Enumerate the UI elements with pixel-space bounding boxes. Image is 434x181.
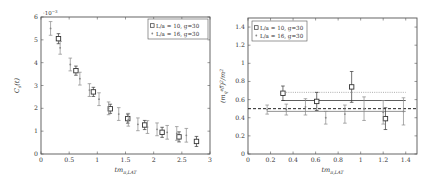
data-point bbox=[349, 71, 353, 102]
square-marker bbox=[315, 99, 319, 103]
x-tick-label: 0 bbox=[39, 156, 43, 163]
data-point bbox=[343, 105, 347, 123]
dot-marker bbox=[285, 109, 287, 111]
legend-label: L/a = 10, g=30 bbox=[156, 23, 200, 30]
dot-marker bbox=[79, 78, 81, 80]
data-point bbox=[117, 108, 121, 121]
data-point bbox=[315, 92, 319, 110]
dot-marker bbox=[403, 110, 405, 112]
y-tick-label: 3 bbox=[34, 82, 38, 89]
dot-marker bbox=[147, 126, 149, 128]
y-tick-label: 0.8 bbox=[235, 77, 245, 84]
square-marker bbox=[56, 36, 60, 40]
y-tick-label: 1.4 bbox=[235, 23, 245, 30]
y-tick-label: 5 bbox=[34, 36, 38, 43]
y-tick-label: 4 bbox=[34, 59, 38, 66]
dot-marker bbox=[89, 89, 91, 91]
data-point bbox=[285, 104, 289, 115]
square-marker bbox=[74, 68, 78, 72]
data-point bbox=[88, 84, 92, 97]
y-tick-label: 6 bbox=[34, 13, 38, 20]
x-tick-label: 1 bbox=[95, 156, 99, 163]
dot-marker bbox=[127, 119, 129, 121]
legend-dot-icon bbox=[255, 35, 257, 37]
legend-label: L/a = 16, g=30 bbox=[260, 33, 304, 40]
data-point bbox=[97, 93, 101, 106]
square-marker bbox=[160, 130, 164, 134]
data-point bbox=[68, 58, 72, 71]
legend: L/a = 10, g=30L/a = 16, g=30 bbox=[148, 19, 208, 39]
square-marker bbox=[349, 85, 353, 89]
data-point bbox=[324, 111, 328, 124]
x-tick-label: 0.8 bbox=[333, 156, 343, 163]
square-marker bbox=[91, 90, 95, 94]
dot-marker bbox=[166, 131, 168, 133]
legend-square-icon bbox=[151, 24, 155, 28]
dot-marker bbox=[137, 123, 139, 125]
x-tick-label: 1.2 bbox=[378, 156, 388, 163]
y-tick-label: 0 bbox=[241, 150, 245, 157]
dot-marker bbox=[59, 47, 61, 49]
legend: L/a = 10, g=30L/a = 16, g=30 bbox=[252, 21, 307, 41]
y-tick-label: 0.4 bbox=[235, 114, 245, 121]
x-tick-label: 1 bbox=[359, 156, 363, 163]
dot-marker bbox=[325, 117, 327, 119]
series-L10 bbox=[56, 34, 198, 147]
right-chart: 00.20.40.60.811.21.400.20.40.60.811.21.4… bbox=[217, 0, 434, 181]
left-chart: 00.511.522.530123456tmπ,LATCs(t)·10−3L/a… bbox=[0, 0, 217, 181]
x-tick-label: 0.6 bbox=[311, 156, 321, 163]
dot-marker bbox=[185, 134, 187, 136]
y-tick-label: 2 bbox=[34, 104, 38, 111]
data-point bbox=[304, 99, 308, 115]
square-marker bbox=[194, 139, 198, 143]
series-L16 bbox=[49, 22, 188, 143]
data-point bbox=[185, 128, 189, 142]
square-marker bbox=[281, 91, 285, 95]
y-tick-label: 1 bbox=[34, 127, 38, 134]
data-point bbox=[49, 22, 53, 36]
x-axis-label-sub: π,LAT bbox=[122, 170, 137, 175]
data-point bbox=[160, 127, 164, 137]
data-point bbox=[91, 87, 95, 96]
y-scale-exponent: −3 bbox=[52, 9, 58, 14]
y-axis-label: (mqeff)2/m2 bbox=[219, 69, 228, 103]
data-point bbox=[165, 125, 169, 139]
x-tick-label: 1.4 bbox=[401, 156, 411, 163]
dot-marker bbox=[305, 106, 307, 108]
dot-marker bbox=[69, 64, 71, 66]
dot-marker bbox=[176, 133, 178, 135]
x-axis-label: tmπ,LAT bbox=[114, 166, 137, 175]
y-axis-label: Cs(t) bbox=[13, 78, 22, 93]
x-axis-label-sub: π,LAT bbox=[329, 170, 344, 175]
dot-marker bbox=[363, 108, 365, 110]
x-tick-label: 0 bbox=[246, 156, 250, 163]
x-tick-label: 3 bbox=[208, 156, 212, 163]
x-tick-label: 2.5 bbox=[177, 156, 187, 163]
y-tick-label: 0 bbox=[34, 150, 38, 157]
data-point bbox=[155, 123, 159, 136]
dot-marker bbox=[108, 107, 110, 109]
y-tick-label: 1.2 bbox=[235, 41, 245, 48]
dot-marker bbox=[344, 113, 346, 115]
data-point bbox=[58, 41, 62, 54]
data-point bbox=[126, 114, 130, 123]
dot-marker bbox=[118, 113, 120, 115]
dot-marker bbox=[98, 98, 100, 100]
y-axis-label-sup3: 2 bbox=[219, 69, 224, 73]
x-tick-label: 0.5 bbox=[64, 156, 74, 163]
x-axis-label: tmπ,LAT bbox=[321, 166, 344, 175]
dot-marker bbox=[266, 109, 268, 111]
data-point bbox=[142, 120, 146, 129]
y-tick-label: 1 bbox=[241, 59, 245, 66]
left-chart-svg: 00.511.522.530123456tmπ,LATCs(t)·10−3L/a… bbox=[0, 0, 217, 181]
x-tick-label: 0.2 bbox=[266, 156, 276, 163]
legend-label: L/a = 16, g=30 bbox=[156, 31, 200, 38]
legend-label: L/a = 10, g=30 bbox=[260, 25, 304, 32]
square-marker bbox=[142, 123, 146, 127]
square-marker bbox=[383, 116, 387, 120]
data-point bbox=[194, 136, 198, 146]
data-point bbox=[136, 118, 140, 131]
x-tick-label: 2 bbox=[152, 156, 156, 163]
y-tick-label: 0.2 bbox=[235, 132, 245, 139]
y-axis-label-div: /m bbox=[219, 72, 227, 81]
